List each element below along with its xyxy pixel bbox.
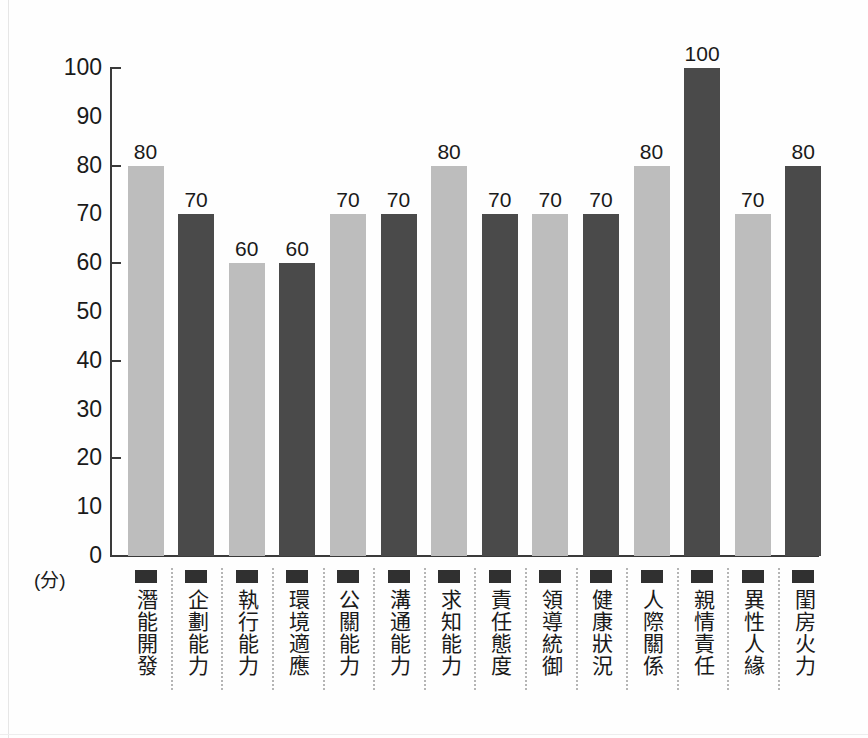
y-tick-label-20: 20 [38, 446, 102, 469]
category-label: 健康狀況 [589, 589, 612, 677]
category-bullet-icon [539, 570, 561, 583]
category-bullet-icon [489, 570, 511, 583]
bar-value-label: 60 [235, 238, 258, 259]
category-bullet-icon [337, 570, 359, 583]
y-tick-label-text: 30 [42, 398, 102, 421]
category-label: 異性人緣 [741, 589, 764, 677]
y-tick-label-10: 10 [38, 495, 102, 518]
bar-value-label: 70 [184, 189, 207, 210]
category-column: 健康狀況 [575, 566, 627, 734]
category-bullet-icon [135, 570, 157, 583]
category-column: 親情責任 [676, 566, 728, 734]
bar: 70 [381, 214, 417, 556]
y-tick-label-40: 40 [38, 349, 102, 372]
category-bullet-icon [691, 570, 713, 583]
category-column: 人際關係 [626, 566, 678, 734]
bar-value-label: 80 [437, 141, 460, 162]
y-tick-label-text: 100 [42, 56, 102, 79]
bar-value-label: 70 [539, 189, 562, 210]
bar: 80 [785, 166, 821, 556]
category-bullet-icon [742, 570, 764, 583]
category-column: 環境適應 [271, 566, 323, 734]
bar: 70 [532, 214, 568, 556]
bar: 80 [128, 166, 164, 556]
y-tick-label-text: 20 [42, 446, 102, 469]
bar: 100 [684, 68, 720, 556]
y-tick-label-100: 100 [38, 56, 102, 79]
category-column: 潛能開發 [120, 566, 172, 734]
category-label: 執行能力 [235, 589, 258, 677]
category-column: 異性人緣 [727, 566, 779, 734]
category-label: 責任態度 [488, 589, 511, 677]
y-tick-label-text: 10 [42, 495, 102, 518]
y-tick-label-text: 80 [42, 154, 102, 177]
y-tick-label-text: 0 [42, 544, 102, 567]
bar: 70 [735, 214, 771, 556]
category-label: 溝通能力 [387, 589, 410, 677]
category-bullet-icon [792, 570, 814, 583]
y-tick-label-text: 60 [42, 251, 102, 274]
y-axis-unit-label: (分) [34, 570, 66, 592]
bar-value-label: 70 [589, 189, 612, 210]
bar: 80 [431, 166, 467, 556]
bar: 70 [583, 214, 619, 556]
plot-area: 0102030405060708090100 (分) 8070606070708… [0, 0, 868, 738]
bar-value-label: 60 [286, 238, 309, 259]
y-tick-label-30: 30 [38, 398, 102, 421]
y-axis-line [110, 68, 112, 557]
category-column: 領導統御 [524, 566, 576, 734]
category-label: 親情責任 [691, 589, 714, 677]
category-bullet-icon [185, 570, 207, 583]
bar: 70 [482, 214, 518, 556]
y-tick-60 [110, 262, 121, 264]
bar-chart: 0102030405060708090100 (分) 8070606070708… [0, 0, 868, 738]
y-tick-label-50: 50 [38, 300, 102, 323]
y-tick-80 [110, 165, 121, 167]
category-label: 企劃能力 [185, 589, 208, 677]
category-column: 求知能力 [423, 566, 475, 734]
bar-value-label: 80 [640, 141, 663, 162]
bar: 80 [634, 166, 670, 556]
category-bullet-icon [438, 570, 460, 583]
category-label: 領導統御 [539, 589, 562, 677]
category-column: 責任態度 [474, 566, 526, 734]
category-column: 閨房火力 [777, 566, 829, 734]
y-tick-label-text: 40 [42, 349, 102, 372]
y-tick-label-text: 90 [42, 105, 102, 128]
category-label: 人際關係 [640, 589, 663, 677]
category-bullet-icon [590, 570, 612, 583]
bar: 70 [178, 214, 214, 556]
category-label: 潛能開發 [134, 589, 157, 677]
bar-value-label: 70 [488, 189, 511, 210]
bar: 60 [279, 263, 315, 556]
y-tick-20 [110, 457, 121, 459]
bar-value-label: 80 [134, 141, 157, 162]
category-column: 溝通能力 [373, 566, 425, 734]
y-tick-label-70: 70 [38, 202, 102, 225]
category-label: 環境適應 [286, 589, 309, 677]
bar: 70 [330, 214, 366, 556]
y-tick-label-0: 0 [38, 544, 102, 567]
bar-value-label: 70 [387, 189, 410, 210]
category-bullet-icon [641, 570, 663, 583]
y-tick-label-text: 70 [42, 202, 102, 225]
y-tick-40 [110, 360, 121, 362]
y-tick-label-90: 90 [38, 105, 102, 128]
category-bullet-icon [388, 570, 410, 583]
bar-value-label: 100 [685, 43, 720, 64]
bar-value-label: 70 [336, 189, 359, 210]
y-tick-label-60: 60 [38, 251, 102, 274]
category-bullet-icon [236, 570, 258, 583]
y-tick-label-text: 50 [42, 300, 102, 323]
category-label: 閨房火力 [792, 589, 815, 677]
bar-value-label: 70 [741, 189, 764, 210]
bar-value-label: 80 [792, 141, 815, 162]
category-column: 執行能力 [221, 566, 273, 734]
bar: 60 [229, 263, 265, 556]
y-tick-100 [110, 67, 121, 69]
y-tick-0 [110, 555, 121, 557]
category-bullet-icon [286, 570, 308, 583]
category-column: 企劃能力 [170, 566, 222, 734]
y-tick-label-80: 80 [38, 154, 102, 177]
category-label: 公關能力 [336, 589, 359, 677]
